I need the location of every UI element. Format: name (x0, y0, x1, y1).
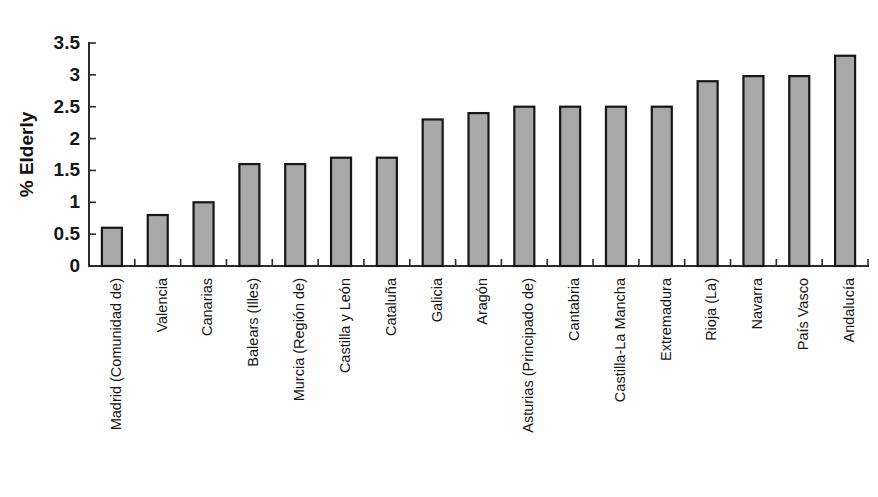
x-axis-category-label: Castilla y León (337, 278, 353, 373)
y-tick-label: 1.5 (54, 159, 81, 180)
x-axis-category-label: Rioja (La) (703, 278, 719, 341)
bar[interactable] (331, 158, 351, 266)
y-tick-label: 0 (69, 255, 80, 276)
bar[interactable] (514, 107, 534, 266)
x-axis-category-label: Cantabria (566, 277, 582, 341)
bar[interactable] (652, 107, 672, 266)
x-axis-category-label: Extremadura (658, 277, 674, 361)
x-axis-category-label: Andalucía (841, 277, 857, 342)
bar[interactable] (560, 107, 580, 266)
bar[interactable] (789, 76, 809, 266)
bar[interactable] (102, 228, 122, 266)
bar[interactable] (698, 81, 718, 266)
x-axis-category-label: Asturias (Principado de) (520, 278, 536, 433)
x-axis-category-label: Aragón (474, 278, 490, 325)
x-axis-category-label: País Vasco (795, 278, 811, 350)
chart-canvas: 00.511.522.533.5% ElderlyMadrid (Comunid… (0, 0, 878, 497)
x-axis-category-label: Valencia (154, 277, 170, 332)
x-axis-category-label: Madrid (Comunidad de) (108, 278, 124, 430)
y-tick-label: 0.5 (54, 223, 81, 244)
bar[interactable] (835, 56, 855, 266)
bar[interactable] (423, 119, 443, 266)
bar[interactable] (239, 164, 259, 266)
bar[interactable] (194, 202, 214, 266)
x-axis-labels: Madrid (Comunidad de)ValenciaCanariasBal… (108, 277, 857, 433)
bar-series (102, 56, 855, 266)
bar[interactable] (606, 107, 626, 266)
x-axis-category-label: Castilla-La Mancha (612, 277, 628, 402)
y-tick-label: 2 (69, 128, 80, 149)
y-tick-label: 3 (69, 64, 80, 85)
bar[interactable] (377, 158, 397, 266)
bar[interactable] (469, 113, 489, 266)
x-axis-category-label: Murcia (Región de) (291, 278, 307, 401)
bar[interactable] (148, 215, 168, 266)
y-axis-title: % Elderly (16, 111, 37, 197)
y-tick-label: 2.5 (54, 96, 81, 117)
bar-chart-figure: 00.511.522.533.5% ElderlyMadrid (Comunid… (0, 0, 878, 497)
x-axis-category-label: Navarra (749, 277, 765, 330)
y-tick-label: 1 (69, 191, 80, 212)
x-axis-category-label: Galicia (429, 277, 445, 322)
bar[interactable] (743, 76, 763, 266)
bar[interactable] (285, 164, 305, 266)
x-axis-category-label: Balears (Illes) (245, 278, 261, 367)
y-tick-label: 3.5 (54, 32, 81, 53)
x-axis-category-label: Cataluña (383, 277, 399, 336)
x-axis-category-label: Canarias (199, 278, 215, 336)
